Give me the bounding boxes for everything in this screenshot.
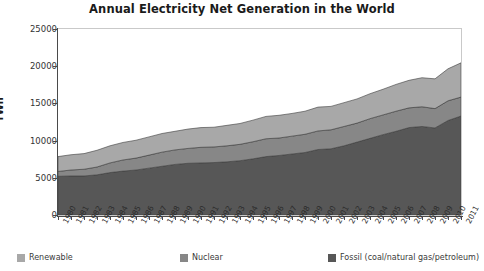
legend-swatch-icon: [180, 254, 188, 262]
x-axis-tick-mark: [448, 216, 449, 220]
legend-swatch-icon: [328, 254, 336, 262]
y-axis-tick-label: 15000: [5, 98, 57, 108]
x-axis-tick-mark: [318, 216, 319, 220]
x-axis-tick-mark: [123, 216, 124, 220]
x-axis-tick-mark: [266, 216, 267, 220]
x-axis-tick-mark: [305, 216, 306, 220]
x-axis-tick-mark: [136, 216, 137, 220]
x-axis-tick-mark: [188, 216, 189, 220]
x-axis-tick-mark: [97, 216, 98, 220]
x-axis-tick-mark: [435, 216, 436, 220]
x-axis-tick-mark: [383, 216, 384, 220]
x-axis-tick-mark: [201, 216, 202, 220]
x-axis-tick-mark: [110, 216, 111, 220]
x-axis-tick-mark: [370, 216, 371, 220]
chart-container: Annual Electricity Net Generation in the…: [0, 0, 484, 271]
x-axis-tick-mark: [461, 216, 462, 220]
x-axis-tick-mark: [292, 216, 293, 220]
x-axis-tick-mark: [84, 216, 85, 220]
x-axis-tick-mark: [344, 216, 345, 220]
x-axis-tick-mark: [422, 216, 423, 220]
x-axis-tick-mark: [175, 216, 176, 220]
y-axis-line: [57, 28, 58, 217]
legend-swatch-icon: [17, 254, 25, 262]
x-axis-tick-mark: [227, 216, 228, 220]
x-axis-tick-mark: [331, 216, 332, 220]
legend-item: Renewable: [17, 253, 73, 262]
x-axis-tick-mark: [396, 216, 397, 220]
x-axis-tick-mark: [409, 216, 410, 220]
x-axis-tick-mark: [253, 216, 254, 220]
y-axis-tick-label: 0: [5, 210, 57, 220]
x-axis-tick-mark: [162, 216, 163, 220]
plot-area: [57, 28, 462, 216]
legend-label: Fossil (coal/natural gas/petroleum): [340, 253, 479, 262]
x-axis-tick-mark: [279, 216, 280, 220]
legend-label: Nuclear: [192, 253, 223, 262]
legend-item: Nuclear: [180, 253, 223, 262]
y-axis-tick-label: 20000: [5, 61, 57, 71]
x-axis-tick-mark: [149, 216, 150, 220]
x-axis-tick-mark: [214, 216, 215, 220]
chart-title: Annual Electricity Net Generation in the…: [0, 2, 484, 16]
x-axis-tick-mark: [58, 216, 59, 220]
y-axis-tick-label: 5000: [5, 173, 57, 183]
y-axis-tick-label: 10000: [5, 136, 57, 146]
legend-item: Fossil (coal/natural gas/petroleum): [328, 253, 479, 262]
x-axis-tick-mark: [240, 216, 241, 220]
x-axis-tick-mark: [357, 216, 358, 220]
legend-label: Renewable: [29, 253, 73, 262]
x-axis-tick-mark: [71, 216, 72, 220]
y-axis-tick-label: 25000: [5, 24, 57, 34]
chart-legend: RenewableNuclearFossil (coal/natural gas…: [0, 253, 484, 267]
stacked-area-svg: [58, 29, 461, 215]
